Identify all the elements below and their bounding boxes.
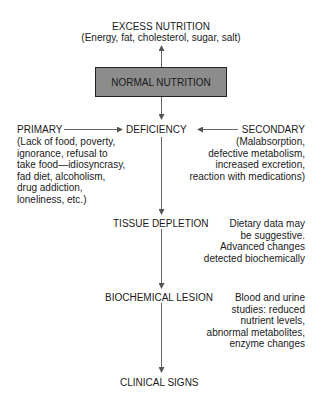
biochemical-lesion-note: Blood and urine studies: reduced nutrien… xyxy=(190,292,305,350)
clinical-signs-label: CLINICAL SIGNS xyxy=(120,377,199,389)
deficiency-label: DEFICIENCY xyxy=(126,124,187,136)
secondary-title: SECONDARY xyxy=(200,124,305,136)
primary-causes: (Lack of food, poverty, ignorance, refus… xyxy=(17,136,125,205)
excess-nutrition-title: EXCESS NUTRITION xyxy=(61,21,261,33)
primary-title: PRIMARY xyxy=(17,124,62,136)
excess-nutrition-detail: (Energy, fat, cholesterol, sugar, salt) xyxy=(61,32,261,44)
secondary-causes: (Malabsorption, defective metabolism, in… xyxy=(165,136,305,182)
normal-nutrition-box: NORMAL NUTRITION xyxy=(95,67,227,97)
normal-nutrition-label: NORMAL NUTRITION xyxy=(111,77,211,88)
tissue-depletion-note: Dietary data may be suggestive. Advanced… xyxy=(190,218,305,264)
